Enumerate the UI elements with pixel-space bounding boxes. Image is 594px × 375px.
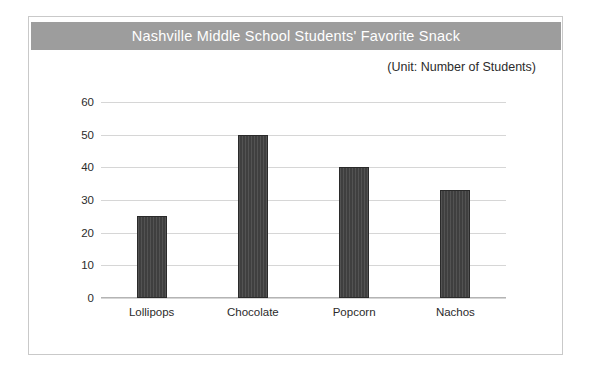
gridline bbox=[101, 102, 506, 103]
plot-area: 0102030405060 LollipopsChocolatePopcornN… bbox=[101, 102, 506, 298]
y-axis-tick-label: 10 bbox=[81, 259, 94, 271]
y-axis-tick-label: 20 bbox=[81, 227, 94, 239]
gridline bbox=[101, 135, 506, 136]
bar bbox=[339, 167, 369, 298]
y-axis-tick-label: 0 bbox=[88, 292, 94, 304]
x-axis-tick-label: Nachos bbox=[436, 306, 475, 318]
y-axis-tick-label: 30 bbox=[81, 194, 94, 206]
gridline bbox=[101, 298, 506, 299]
chart-figure: Nashville Middle School Students' Favori… bbox=[28, 16, 563, 355]
y-axis-tick-label: 60 bbox=[81, 96, 94, 108]
page-title: Nashville Middle School Students' Favori… bbox=[132, 28, 460, 44]
gridline bbox=[101, 167, 506, 168]
x-axis-tick-label: Lollipops bbox=[129, 306, 174, 318]
bar bbox=[238, 135, 268, 298]
chart-subtitle-unit: (Unit: Number of Students) bbox=[387, 60, 536, 74]
y-axis-tick-label: 40 bbox=[81, 161, 94, 173]
x-axis-tick-label: Popcorn bbox=[333, 306, 376, 318]
y-axis-tick-label: 50 bbox=[81, 129, 94, 141]
bar bbox=[440, 190, 470, 298]
x-axis-tick-label: Chocolate bbox=[227, 306, 279, 318]
chart-title-banner: Nashville Middle School Students' Favori… bbox=[31, 22, 561, 50]
bar bbox=[137, 216, 167, 298]
